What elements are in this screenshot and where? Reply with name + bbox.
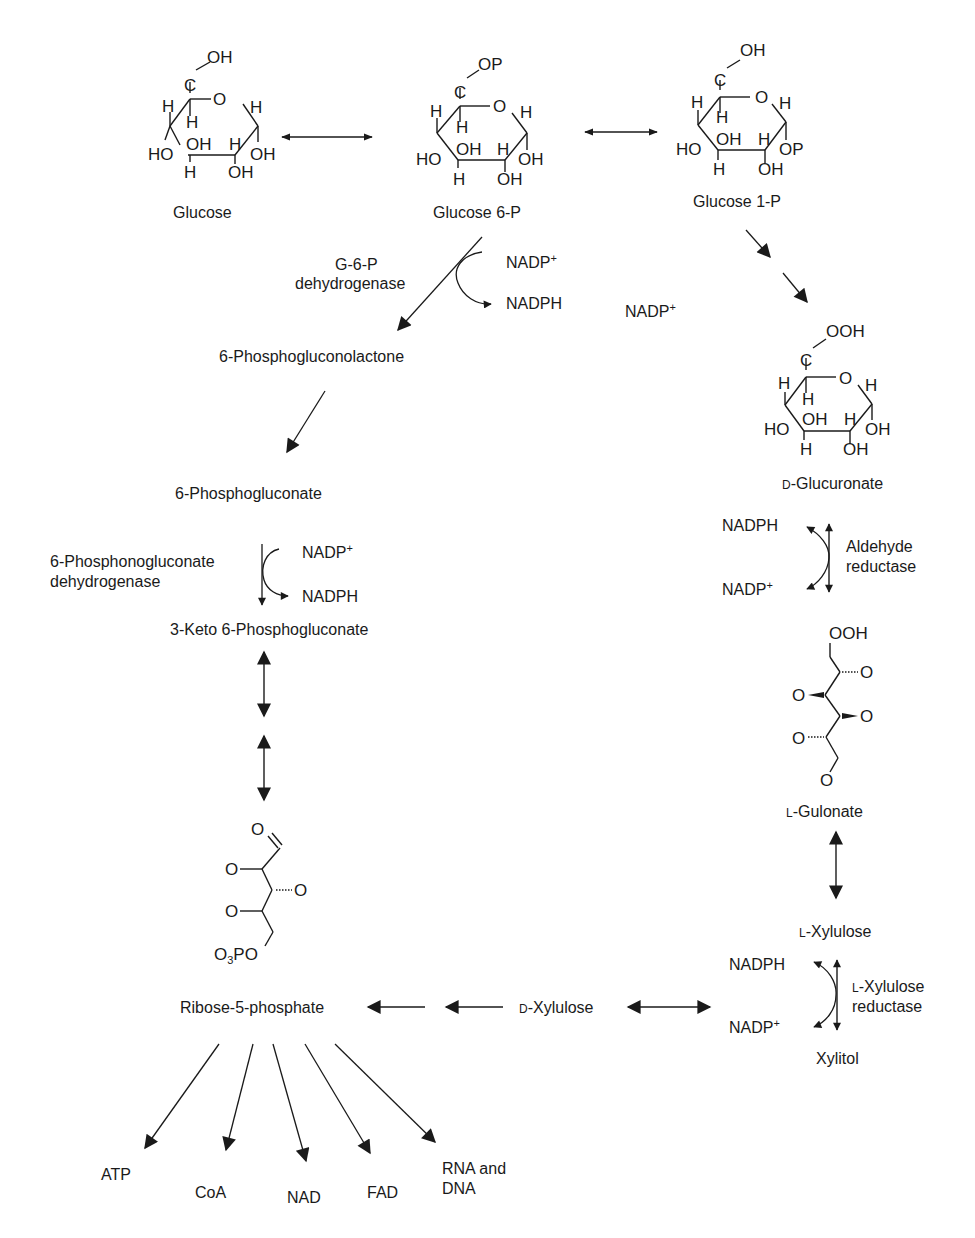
glucose-h-inner: H: [186, 113, 198, 132]
glucuronate-h-left: H: [778, 374, 790, 393]
g6pd-nadph-label: NADPH: [506, 294, 562, 313]
g6p-h-left: H: [430, 102, 442, 121]
product-rna-dna-line2: DNA: [442, 1179, 476, 1198]
pgd-cofactor-arrow: [263, 549, 288, 596]
g6p-ho-left: HO: [416, 150, 442, 169]
lactone-hydrolysis-arrow: [287, 391, 325, 452]
g6p-h-inner2: H: [497, 140, 509, 159]
glucose6p-structure: [437, 70, 527, 172]
g6p-ring-o: O: [493, 97, 506, 116]
glucuronate-ring-o: O: [839, 369, 852, 388]
glucuronate-h-inner: H: [802, 390, 814, 409]
glucose-h-right: H: [250, 98, 262, 117]
glucuronate-c: C: [800, 351, 812, 370]
glucose-label: Glucose: [173, 203, 232, 222]
aldehyde-reductase-nadp: NADP+: [722, 580, 773, 599]
nadp-text: NADP: [625, 303, 669, 320]
product-coa: CoA: [195, 1183, 226, 1202]
gulonate-o2: O: [792, 686, 805, 705]
ribose-to-nad-arrow: [273, 1044, 306, 1161]
glucose-h-bottom: H: [184, 163, 196, 182]
g1p-oh-bottom: OH: [758, 160, 784, 179]
ribose-o2: O: [294, 881, 307, 900]
l-xylulose-name: -Xylulose: [806, 923, 872, 940]
glucuronate-label: D-Glucuronate: [782, 474, 883, 495]
product-atp: ATP: [101, 1165, 131, 1184]
xylulose-reductase-line2: reductase: [852, 997, 922, 1016]
d-prefix: D: [782, 478, 791, 492]
glucuronate-top-ooh: OOH: [826, 322, 865, 341]
nadp-charge: +: [773, 1017, 779, 1029]
glucuronate-oh-right: OH: [865, 420, 891, 439]
g6p-oh-inner: OH: [456, 140, 482, 159]
pgd-enzyme-line2: dehydrogenase: [50, 572, 160, 591]
glucuronate-name: -Glucuronate: [791, 475, 884, 492]
gulonate-o1: O: [860, 663, 873, 682]
l-prefix: L: [786, 806, 793, 820]
product-fad: FAD: [367, 1183, 398, 1202]
xylulose-reductase-nadph: NADPH: [729, 955, 785, 974]
gulonate-o4: O: [792, 729, 805, 748]
g1p-h-right: H: [779, 94, 791, 113]
g1p-h-inner2: H: [758, 130, 770, 149]
g6p-h-inner: H: [456, 118, 468, 137]
xylitol-label: Xylitol: [816, 1049, 859, 1068]
glucose-oh-inner: OH: [186, 135, 212, 154]
nadp-charge: +: [346, 542, 352, 554]
glucose-structure: [165, 62, 258, 164]
pgd-nadp-label: NADP+: [302, 543, 353, 562]
g6p-top-op: OP: [478, 55, 503, 74]
g6p-oh-bottom: OH: [497, 170, 523, 189]
glucose-top-oh: OH: [207, 48, 233, 67]
g1p-op-right: OP: [779, 140, 804, 159]
glucose-oh-right: OH: [250, 145, 276, 164]
nadp-text: NADP: [729, 1019, 773, 1036]
g1p-h-inner: H: [716, 108, 728, 127]
nadp-charge: +: [550, 252, 556, 264]
gulonate-name: -Gulonate: [793, 803, 863, 820]
g1p-h-bottom: H: [713, 160, 725, 179]
nadp-text: NADP: [722, 581, 766, 598]
nadp-text: NADP: [506, 254, 550, 271]
glucuronate-oh-bottom: OH: [843, 440, 869, 459]
g1p-step2-arrow: [783, 273, 807, 302]
gulonate-structure: [825, 643, 840, 772]
product-rna-dna-line1: RNA and: [442, 1159, 506, 1178]
g6p-h-bottom: H: [453, 170, 465, 189]
g1p-top-oh: OH: [740, 41, 766, 60]
glucuronate-oh-inner: OH: [802, 410, 828, 429]
product-nad: NAD: [287, 1188, 321, 1207]
l-prefix: L: [852, 981, 859, 995]
glucuronate-h-bottom: H: [800, 440, 812, 459]
gulonate-label: L-Gulonate: [786, 802, 863, 823]
gulonate-o5: O: [820, 771, 833, 790]
g1p-ring-o: O: [755, 88, 768, 107]
ribose-to-rna-dna-arrow: [335, 1044, 435, 1142]
g6pd-nadp-label: NADP+: [506, 253, 557, 272]
xylulose-reductase-cofactor-arrow: [814, 962, 836, 1027]
g1p-h-left: H: [691, 93, 703, 112]
glucose6p-label: Glucose 6-P: [433, 203, 521, 222]
d-xylulose-label: D-Xylulose: [519, 998, 593, 1019]
pgd-enzyme-line1: 6-Phosphonogluconate: [50, 552, 215, 571]
g6pd-reaction-arrow: [398, 237, 482, 330]
g1p-c: C: [714, 71, 726, 90]
glucose-ho-left: HO: [148, 145, 174, 164]
g1p-oh-inner: OH: [716, 130, 742, 149]
glucose1p-structure: [698, 60, 786, 163]
gulonate-wedge-bond-2: [842, 713, 858, 719]
glucuronate-h-inner2: H: [844, 410, 856, 429]
g6p-h-right: H: [520, 103, 532, 122]
ribose-to-fad-arrow: [305, 1044, 370, 1153]
pgd-nadph-label: NADPH: [302, 587, 358, 606]
g1p-step1-arrow: [746, 230, 770, 257]
glucose-c: C: [184, 76, 196, 95]
l-xylulose-label: L-Xylulose: [799, 922, 872, 943]
ribose-o3po: O3PO: [214, 945, 258, 970]
nadp-charge: +: [766, 579, 772, 591]
aldehyde-reductase-nadph: NADPH: [722, 516, 778, 535]
g6pd-enzyme-line1: G-6-P: [335, 255, 378, 274]
d-xylulose-name: -Xylulose: [528, 999, 594, 1016]
pathway-diagram: OH C O H H H HO OH H OH H OH Glucose OP …: [0, 0, 975, 1238]
aldehyde-reductase-line1: Aldehyde: [846, 537, 913, 556]
